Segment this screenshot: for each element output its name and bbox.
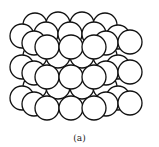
sphere [118, 60, 142, 84]
front-layer [35, 35, 106, 120]
sphere [82, 35, 106, 59]
sphere [35, 65, 59, 89]
sphere-layers [10, 12, 142, 120]
sphere [35, 96, 59, 120]
sphere [59, 96, 83, 120]
sphere [35, 35, 59, 59]
sphere-packing-diagram [0, 0, 159, 147]
sphere [82, 96, 106, 120]
sphere [118, 30, 142, 54]
sphere [59, 35, 83, 59]
figure-caption: (a) [0, 133, 159, 143]
sphere [82, 65, 106, 89]
sphere [118, 91, 142, 115]
sphere [59, 65, 83, 89]
